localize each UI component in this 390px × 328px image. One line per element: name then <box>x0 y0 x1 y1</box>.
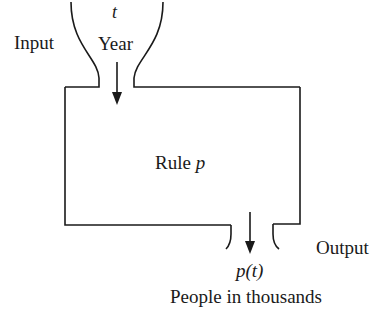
input-funnel-right <box>134 2 300 87</box>
output-arrow-head-icon <box>245 241 255 254</box>
output-description: People in thousands <box>170 287 322 306</box>
input-label: Input <box>14 33 54 52</box>
output-funnel-right <box>273 224 279 249</box>
input-arrow-head-icon <box>112 92 122 105</box>
rule-name: p <box>196 152 206 173</box>
box-right <box>273 87 300 224</box>
input-variable: t <box>112 3 117 21</box>
function-machine-diagram: Input t Year Rule p Output p(t) People i… <box>0 0 390 328</box>
output-funnel-left <box>226 225 231 249</box>
input-funnel-left <box>65 2 99 87</box>
output-label: Output <box>316 238 369 257</box>
rule-label: Rule p <box>155 153 205 172</box>
rule-prefix: Rule <box>155 152 196 173</box>
output-expression: p(t) <box>236 261 263 280</box>
input-description: Year <box>98 34 133 53</box>
box-left-bottom <box>65 87 231 225</box>
